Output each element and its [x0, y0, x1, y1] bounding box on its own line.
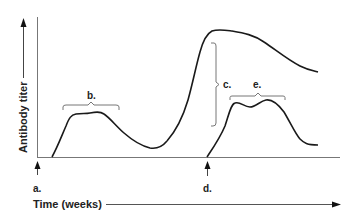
- bracket-c: [211, 43, 219, 126]
- primary-response-curve: [52, 112, 167, 157]
- bracket-e: [230, 93, 285, 100]
- label-b: b.: [87, 90, 96, 101]
- x-axis-label: Time (weeks): [33, 198, 102, 210]
- antibody-response-diagram: Antibody titer b. c. e. a. d. Time (week…: [0, 0, 355, 224]
- secondary-response-curve: [167, 30, 318, 141]
- label-d: d.: [203, 183, 212, 194]
- y-axis-arrow: [21, 18, 27, 78]
- new-antigen-primary-curve: [207, 100, 318, 157]
- label-a: a.: [33, 183, 42, 194]
- y-axis-label: Antibody titer: [17, 81, 29, 153]
- label-e: e.: [253, 79, 262, 90]
- x-axis-arrow: [106, 202, 341, 208]
- arrow-d: [205, 161, 211, 176]
- label-c: c.: [223, 79, 232, 90]
- bracket-b: [63, 102, 119, 110]
- arrow-a: [35, 161, 41, 175]
